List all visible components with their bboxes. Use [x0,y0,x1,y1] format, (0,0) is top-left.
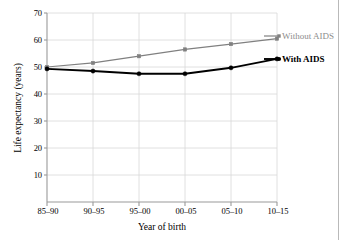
series-line-without-aids [47,39,277,67]
x-tick-label: 05–10 [208,207,256,216]
y-tick-label: 10 [20,171,42,180]
data-point-with-aids [183,72,187,76]
y-tick-label: 70 [20,9,42,18]
y-tick-label: 60 [20,36,42,45]
legend-marker-without-aids [277,34,280,37]
data-point-without-aids [229,42,232,45]
data-point-without-aids [91,61,94,64]
x-tick-label: 85–90 [24,207,72,216]
data-point-without-aids [183,48,186,51]
x-tick-label: 00–05 [162,207,210,216]
legend-marker-with-aids [277,57,281,61]
data-point-with-aids [137,72,141,76]
series-label-without-aids: Without AIDS [282,31,334,41]
gridlines [47,13,277,202]
y-tick-label: 50 [20,63,42,72]
x-axis-title: Year of birth [47,222,277,232]
y-axis-title: Life expectancy (years) [13,28,23,188]
tick-marks [44,13,277,206]
x-tick-label: 95–00 [116,207,164,216]
axis-lines [47,13,277,202]
x-tick-label: 90–95 [70,207,118,216]
line-chart-figure: 70 60 50 40 30 20 10 85–90 90–95 95–00 0… [0,0,351,240]
y-tick-label: 20 [20,144,42,153]
series-line-with-aids [47,59,277,74]
data-point-with-aids [45,67,49,71]
y-tick-label: 30 [20,117,42,126]
x-tick-label: 10–15 [254,207,302,216]
data-point-with-aids [229,66,233,70]
data-point-without-aids [137,55,140,58]
y-tick-label: 40 [20,90,42,99]
data-point-with-aids [91,69,95,73]
page-edge-rule [338,0,339,240]
series-layer [45,37,279,76]
series-label-with-aids: With AIDS [282,54,325,64]
